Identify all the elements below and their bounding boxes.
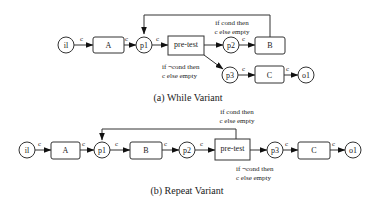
loop-edge-b-to-p1	[144, 15, 270, 37]
arc-label: c	[125, 35, 128, 43]
cond-false-label-line2: c else empty	[236, 174, 271, 182]
transition-a-label: A	[106, 41, 112, 50]
petri-net-figure: if cond then c else empty il c A c p1 c …	[0, 0, 373, 206]
caption-repeat-variant: (b) Repeat Variant	[150, 185, 223, 197]
transition-b-label: B	[267, 41, 272, 50]
place-p2-label: p2	[183, 146, 191, 155]
arc-label: c	[164, 140, 167, 148]
arc-label: c	[156, 35, 159, 43]
arc-label: c	[115, 140, 118, 148]
caption-while-variant: (a) While Variant	[153, 92, 222, 104]
edge-pretest-p3	[204, 55, 223, 69]
place-p1-label: p1	[98, 146, 106, 155]
arc-label: c	[242, 35, 245, 43]
arc-label: c	[80, 35, 83, 43]
arc-label: c	[82, 140, 85, 148]
while-variant-diagram: if cond then c else empty il c A c p1 c …	[58, 15, 314, 104]
arc-label: c	[38, 140, 41, 148]
cond-true-label-line2: c else empty	[220, 117, 255, 125]
arc-label: c	[286, 65, 289, 73]
cond-false-label-line1: if ¬cond then	[236, 165, 274, 173]
transition-c-label: C	[267, 71, 272, 80]
cond-false-label-line2: c else empty	[162, 72, 197, 80]
cond-true-label-line1: if cond then	[220, 108, 254, 116]
cond-true-label-line1: if cond then	[215, 19, 249, 27]
cond-false-label-line1: if ¬cond then	[162, 63, 200, 71]
loop-edge-pretest-to-p1	[102, 129, 236, 140]
place-p1-label: p1	[140, 41, 148, 50]
place-p2-label: p2	[227, 41, 235, 50]
place-il-label: il	[25, 146, 30, 155]
transition-pre-test-label: pre-test	[174, 40, 199, 49]
arc-label: c	[200, 140, 203, 148]
transition-pre-test-label: pre-test	[221, 144, 246, 153]
transition-b-label: B	[143, 146, 148, 155]
arc-label: c	[242, 65, 245, 73]
place-o1-label: o1	[349, 146, 357, 155]
arc-label: c	[332, 140, 335, 148]
transition-a-label: A	[63, 146, 69, 155]
place-il-label: il	[64, 41, 69, 50]
repeat-variant-diagram: if cond then c else empty il c A c p1 c …	[19, 108, 361, 197]
transition-c-label: C	[311, 146, 316, 155]
place-o1-label: o1	[302, 71, 310, 80]
place-p3-label: p3	[226, 71, 234, 80]
place-p3-label: p3	[271, 146, 279, 155]
arc-label: c	[285, 140, 288, 148]
